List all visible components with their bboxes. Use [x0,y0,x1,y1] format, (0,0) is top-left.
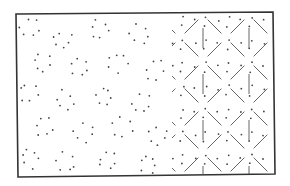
dot [180,94,182,96]
dot [204,71,206,73]
lattice-stroke [231,89,245,103]
dot [216,111,218,113]
dot [29,100,31,102]
dot [85,142,87,144]
dot [248,26,250,28]
dot [205,39,207,41]
dot [182,131,184,133]
dot [216,42,218,44]
dot [85,61,87,63]
dot [203,48,205,50]
dot [34,152,36,154]
dot [38,157,40,159]
dot [204,25,206,27]
dot [240,111,242,113]
texture-diagram [0,0,290,186]
lattice-stroke [139,112,153,126]
dot [154,165,156,167]
dot [99,164,101,166]
dot [92,26,94,28]
dot [218,20,220,22]
lattice-stroke [185,135,199,149]
lattice-stroke [231,181,245,186]
dot [141,159,143,161]
dot [56,99,58,101]
lattice-stroke [231,20,245,34]
dot [33,34,35,36]
dot [205,155,207,157]
dot [42,71,44,73]
dot [239,157,241,159]
dot [251,84,253,86]
dot [121,136,123,138]
dot [108,30,110,32]
lattice-stroke [254,135,268,149]
dot [69,95,71,97]
lattice-stroke [231,135,245,149]
dot [263,19,265,21]
diagram-canvas [0,0,290,186]
dot [36,125,38,127]
lattice-stroke [185,43,199,57]
dot [228,109,230,111]
dot [147,36,149,38]
dot [206,86,208,88]
dot [63,47,65,49]
dot [26,149,28,151]
dot [226,140,228,142]
dot [181,163,183,165]
dot [251,109,253,111]
dot [22,154,24,156]
dot [49,64,51,66]
dot [147,78,149,80]
dot [182,109,184,111]
dot [95,94,97,96]
dot [123,55,125,57]
dot [21,100,23,102]
dot [155,127,157,129]
dot [182,154,184,156]
dot [264,89,266,91]
dot [172,158,174,160]
lattice-stroke [162,112,176,126]
lattice-stroke [231,0,245,10]
lattice-stroke [185,0,199,10]
dot [240,42,242,44]
dot [152,172,154,174]
dot [204,163,206,165]
dot [193,111,195,113]
dot [172,43,174,45]
dot [119,116,121,118]
dot [71,34,73,36]
dot [202,116,204,118]
lattice-stroke [277,66,290,80]
dot [229,16,231,18]
dot [262,65,264,67]
lattice-stroke [185,89,199,103]
dot [249,95,251,97]
lattice-stroke [254,158,268,172]
lattice-stroke [254,89,268,103]
dot [59,169,61,171]
lattice-stroke [277,43,290,57]
lattice-stroke [208,135,222,149]
dot [227,49,229,51]
dot [164,137,166,139]
lattice-stroke [162,43,176,57]
lattice-stroke [254,181,268,186]
lattice-stroke [139,66,153,80]
dot [181,24,183,26]
dot [226,71,228,73]
dot [110,97,112,99]
lattice-stroke [139,89,153,103]
dot [145,156,147,158]
dot [263,111,265,113]
dot [240,65,242,67]
dot [72,130,74,132]
dot [40,118,42,120]
dot [108,57,110,59]
lattice-stroke [254,112,268,126]
dot [153,61,155,63]
dot [81,74,83,76]
dot-clusters [18,16,265,174]
